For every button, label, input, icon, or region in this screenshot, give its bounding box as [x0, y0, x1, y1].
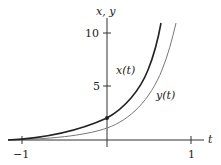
curve-y [8, 23, 176, 140]
initial-point [105, 116, 109, 120]
chart: x, y t −1 1 5 10 x(t) y(t) [0, 0, 221, 165]
y-axis-label: x, y [96, 5, 116, 18]
tick-label-neg1: −1 [13, 148, 29, 161]
curve-x [8, 23, 161, 140]
tick-label-5: 5 [93, 80, 100, 93]
curve-label-x: x(t) [116, 64, 135, 77]
tick-label-10: 10 [85, 27, 99, 40]
x-axis-label: t [208, 133, 213, 146]
curve-label-y: y(t) [155, 89, 175, 102]
tick-label-1: 1 [188, 148, 195, 161]
